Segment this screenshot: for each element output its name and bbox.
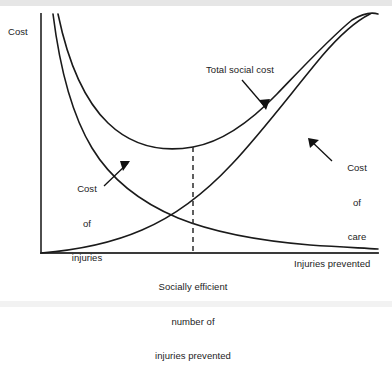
- annotation-total-social-cost: Total social cost: [206, 64, 274, 76]
- annotation-cost-of-care: Cost of care: [337, 139, 377, 266]
- curve-total-social-cost: [58, 13, 378, 149]
- annotation-cost-of-injuries: Cost of injuries: [62, 160, 112, 287]
- annotation-cost-of-care-line1: Cost: [337, 162, 377, 174]
- annotation-socially-efficient-line3: injuries prevented: [140, 350, 246, 362]
- annotation-cost-of-care-line3: care: [337, 231, 377, 243]
- annotation-cost-of-care-line2: of: [337, 197, 377, 209]
- annotation-cost-of-injuries-line2: of: [62, 218, 112, 230]
- arrowhead-total-social-cost: [259, 99, 270, 110]
- annotation-socially-efficient-line2: number of: [140, 316, 246, 328]
- annotation-cost-of-injuries-line3: injuries: [62, 252, 112, 264]
- annotation-socially-efficient-line1: Socially efficient: [140, 281, 246, 293]
- y-axis-title: Cost: [8, 26, 28, 38]
- annotation-socially-efficient: Socially efficient number of injuries pr…: [140, 258, 246, 365]
- annotation-cost-of-injuries-line1: Cost: [62, 183, 112, 195]
- x-axis-title: Injuries prevented: [294, 258, 370, 270]
